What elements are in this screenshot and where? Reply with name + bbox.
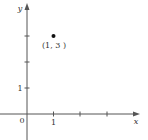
point-marker-icon (52, 34, 56, 38)
x-axis-arrow-icon (133, 112, 140, 117)
y-axis-label: y (17, 4, 23, 13)
y-tick-label-1: 1 (17, 84, 22, 93)
coordinate-plane: y x 0 1 1 (1, 3 ) (0, 0, 148, 140)
y-axis-arrow-icon (25, 3, 30, 10)
origin-label: 0 (19, 116, 24, 125)
x-tick-label-1: 1 (51, 118, 56, 127)
y-axis (25, 3, 30, 140)
point-label: (1, 3 ) (42, 41, 66, 50)
x-axis-label: x (134, 117, 139, 126)
